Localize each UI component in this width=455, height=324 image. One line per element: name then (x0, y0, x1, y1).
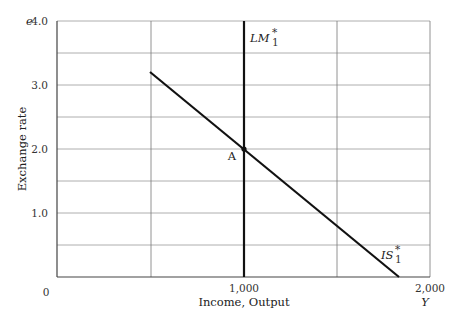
x-tick-2000: 2,000 (415, 282, 445, 294)
y-tick-2: 2.0 (31, 143, 48, 155)
y-variable-label: e (26, 14, 33, 28)
is-label-main: IS (380, 248, 394, 262)
is-curve (150, 72, 399, 277)
lm-curve-label: LM * 1 (249, 26, 279, 48)
lm-label-sub: 1 (272, 36, 279, 48)
lm-label-main: LM (249, 31, 271, 45)
y-tick-4: 4.0 (31, 15, 48, 27)
point-a-label: A (227, 149, 237, 163)
x-variable-label: Y (421, 295, 430, 309)
is-curve-label: IS * 1 (380, 243, 402, 265)
x-tick-0: 0 (43, 286, 50, 298)
is-label-sub: 1 (395, 253, 402, 265)
x-axis-title: Income, Output (198, 295, 290, 309)
chart-canvas: 4.0 3.0 2.0 1.0 e Exchange rate 0 1,000 … (0, 0, 455, 324)
x-tick-1000: 1,000 (229, 282, 259, 294)
y-tick-1: 1.0 (31, 207, 48, 219)
y-axis-title: Exchange rate (15, 107, 29, 192)
y-tick-3: 3.0 (31, 79, 48, 91)
equilibrium-point (241, 146, 246, 151)
